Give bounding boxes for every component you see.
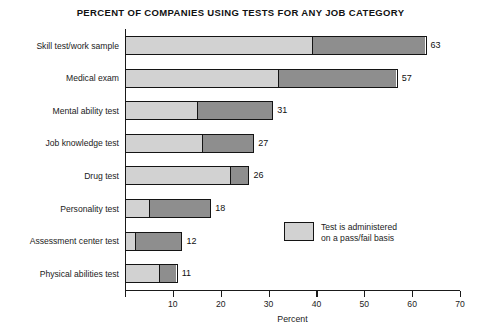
- legend-label-line2: on a pass/fail basis: [321, 233, 397, 244]
- bar-3: [125, 101, 273, 120]
- legend-label-line1: Test is administered: [321, 222, 397, 233]
- bar-segment-pass-fail: [126, 135, 203, 152]
- bar-6: [125, 199, 211, 218]
- bar-segment-other: [279, 70, 396, 87]
- bar-segment-pass-fail: [126, 265, 160, 282]
- x-tick-0: [125, 291, 126, 297]
- bar-segment-pass-fail: [126, 102, 198, 119]
- bar-outline: [125, 36, 427, 55]
- bar-7: [125, 232, 182, 251]
- category-label-8: Physical abilities test: [40, 269, 119, 279]
- bar-value-label: 27: [258, 134, 268, 153]
- bar-outline: [125, 166, 249, 185]
- bar-value-label: 63: [431, 36, 441, 55]
- bar-segment-pass-fail: [126, 37, 313, 54]
- x-tick-label-10: 10: [158, 299, 188, 309]
- x-tick-label-70: 70: [445, 299, 475, 309]
- x-tick-label-40: 40: [301, 299, 331, 309]
- bar-outline: [125, 69, 398, 88]
- bar-segment-pass-fail: [126, 233, 136, 250]
- bar-value-label: 31: [277, 101, 287, 120]
- x-tick-10: [173, 291, 174, 297]
- category-label-7: Assessment center test: [30, 236, 119, 246]
- category-label-3: Mental ability test: [53, 106, 119, 116]
- bar-value-label: 12: [186, 232, 196, 251]
- x-tick-40: [316, 291, 317, 297]
- bar-outline: [125, 199, 211, 218]
- bar-value-label: 18: [215, 199, 225, 218]
- x-tick-label-30: 30: [254, 299, 284, 309]
- x-tick-label-20: 20: [206, 299, 236, 309]
- chart-title: PERCENT OF COMPANIES USING TESTS FOR ANY…: [1, 7, 479, 18]
- x-tick-20: [221, 291, 222, 297]
- bar-value-label: 57: [402, 69, 412, 88]
- category-label-4: Job knowledge test: [45, 138, 119, 148]
- bar-value-label: 11: [182, 264, 191, 283]
- x-tick-30: [269, 291, 270, 297]
- x-axis-line: [125, 290, 460, 291]
- category-label-6: Personality test: [60, 204, 119, 214]
- bar-segment-other: [313, 37, 425, 54]
- bar-segment-other: [136, 233, 181, 250]
- bar-segment-pass-fail: [126, 167, 231, 184]
- bar-segment-pass-fail: [126, 70, 279, 87]
- bar-outline: [125, 101, 273, 120]
- x-tick-50: [364, 291, 365, 297]
- x-tick-label-50: 50: [349, 299, 379, 309]
- bar-segment-other: [160, 265, 177, 282]
- legend-swatch-pass-fail: [284, 222, 314, 241]
- chart-container: PERCENT OF COMPANIES USING TESTS FOR ANY…: [0, 0, 479, 336]
- bar-segment-pass-fail: [126, 200, 150, 217]
- bar-2: [125, 69, 398, 88]
- bar-segment-other: [203, 135, 253, 152]
- bar-outline: [125, 264, 178, 283]
- bar-segment-other: [198, 102, 272, 119]
- x-tick-label-60: 60: [397, 299, 427, 309]
- bar-outline: [125, 232, 182, 251]
- bar-segment-other: [150, 200, 210, 217]
- category-label-2: Medical exam: [66, 73, 119, 83]
- bar-outline: [125, 134, 254, 153]
- bar-5: [125, 166, 249, 185]
- legend-label: Test is administered on a pass/fail basi…: [321, 222, 397, 243]
- bar-segment-other: [231, 167, 248, 184]
- category-label-1: Skill test/work sample: [36, 41, 119, 51]
- x-tick-70: [460, 291, 461, 297]
- legend: Test is administered on a pass/fail basi…: [284, 222, 397, 243]
- bar-4: [125, 134, 254, 153]
- bar-value-label: 26: [253, 166, 263, 185]
- category-label-5: Drug test: [84, 171, 119, 181]
- bar-8: [125, 264, 178, 283]
- bar-1: [125, 36, 427, 55]
- x-axis-title: Percent: [125, 314, 460, 324]
- x-tick-60: [412, 291, 413, 297]
